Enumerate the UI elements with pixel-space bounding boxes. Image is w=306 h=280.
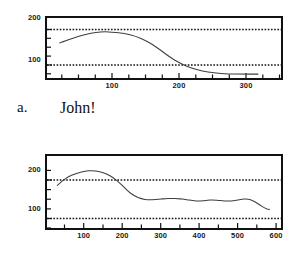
- figure-b-plot-area: [45, 154, 283, 230]
- figure-a-ytick-200: 200: [28, 14, 41, 22]
- figure-a-xtick-100: 100: [105, 82, 118, 90]
- figure-b-plot-svg: [45, 154, 283, 230]
- figure-b-y-axis-labels: 200 100: [0, 140, 41, 280]
- figure-b-xtick-100: 100: [77, 232, 90, 240]
- figure-a-xtick-200: 200: [172, 82, 185, 90]
- figure-b-ytick-100: 100: [28, 205, 41, 213]
- figure-a-plot-svg: [45, 16, 283, 80]
- figure-a-y-axis-labels: 200 100: [0, 0, 41, 140]
- figure-b-x-axis-labels: 100 200 300 400 500 600: [45, 232, 283, 244]
- figure-a-ytick-100: 100: [28, 56, 41, 64]
- figure-a-caption-text: John!: [60, 98, 96, 117]
- figure-a: 200 100: [0, 0, 306, 140]
- figure-a-plot-frame: [46, 17, 282, 79]
- figure-b-xtick-200: 200: [116, 232, 129, 240]
- figure-b-xtick-500: 500: [231, 232, 244, 240]
- figure-b: 200 100: [0, 140, 306, 280]
- figure-a-x-axis-labels: 100 200 300: [45, 82, 283, 94]
- figure-b-xtick-600: 600: [270, 232, 283, 240]
- figure-b-xtick-300: 300: [154, 232, 167, 240]
- figure-a-plot-area: [45, 16, 283, 80]
- figure-a-xtick-300: 300: [239, 82, 252, 90]
- figure-a-caption-label: a.: [17, 98, 27, 116]
- figure-b-xtick-400: 400: [193, 232, 206, 240]
- figure-b-ytick-200: 200: [28, 166, 41, 174]
